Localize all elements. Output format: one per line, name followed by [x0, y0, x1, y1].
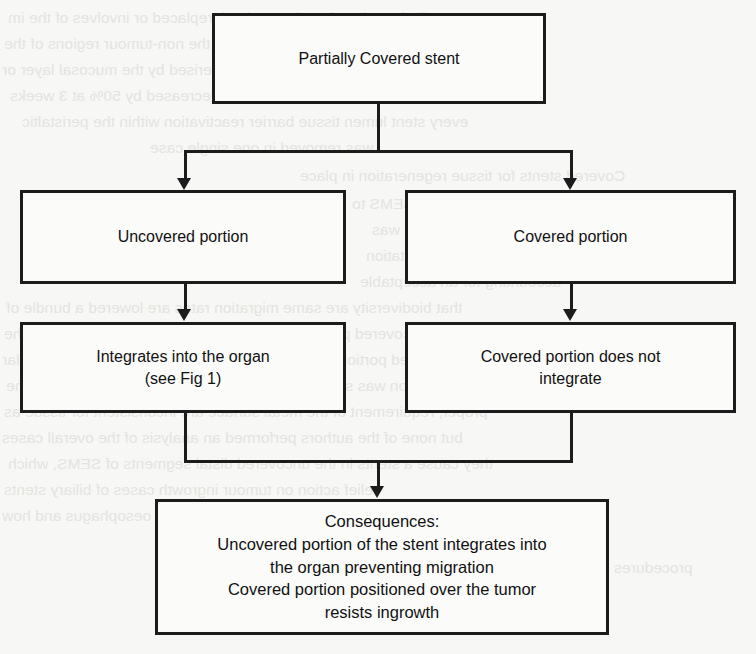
flowchart: Partially Covered stent Uncovered portio… — [0, 0, 756, 654]
arrowhead-to-consequences — [370, 486, 384, 498]
connector-branch-right — [570, 150, 573, 180]
arrowhead-to-covered-portion — [563, 178, 577, 190]
node-label: Covered portion — [514, 226, 628, 247]
connector-branch-left — [184, 150, 187, 180]
connector-merge-down — [377, 460, 380, 488]
connector-uncovered-to-integrates — [184, 284, 187, 310]
node-uncovered-portion: Uncovered portion — [20, 190, 346, 284]
arrowhead-to-integrates-into-organ — [177, 309, 191, 321]
node-partially-covered-stent: Partially Covered stent — [212, 13, 546, 104]
connector-split-bar — [184, 150, 573, 153]
connector-merge-left — [184, 413, 187, 463]
node-integrates-into-organ: Integrates into the organ (see Fig 1) — [20, 322, 346, 413]
node-covered-portion: Covered portion — [405, 190, 736, 284]
node-covered-portion-does-not-integrate: Covered portion does not integrate — [405, 322, 736, 413]
node-label: Integrates into the organ (see Fig 1) — [96, 346, 269, 388]
arrowhead-to-uncovered-portion — [177, 178, 191, 190]
connector-root-stem — [377, 104, 380, 152]
node-label: Consequences: Uncovered portion of the s… — [217, 510, 546, 624]
node-label: Uncovered portion — [118, 226, 249, 247]
connector-merge-right — [570, 413, 573, 463]
node-label: Partially Covered stent — [299, 48, 460, 69]
node-label: Covered portion does not integrate — [481, 346, 661, 388]
connector-covered-to-not-integrate — [570, 284, 573, 310]
figure-canvas: palliative. Therefore the portion it rep… — [0, 0, 756, 654]
arrowhead-to-covered-portion-does-not-integrate — [563, 309, 577, 321]
node-consequences: Consequences: Uncovered portion of the s… — [155, 499, 609, 635]
